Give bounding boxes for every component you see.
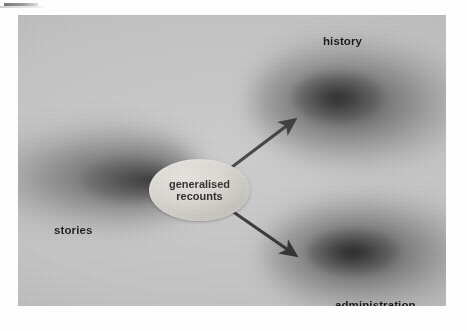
label-administration: administration [335,299,416,306]
label-history: history [323,35,362,47]
label-stories: stories [54,224,92,236]
scan-artifact-streak-secondary [0,6,44,8]
arrow-to-history [232,121,293,167]
node-label-line-1: generalised [169,178,230,190]
arrow-to-administration [232,211,294,254]
node-label-line-2: recounts [176,190,222,202]
diagram-figure-panel: generalised recounts history administrat… [18,15,446,306]
diagram-arrow-layer [18,15,446,306]
node-generalised-recounts: generalised recounts [149,159,250,221]
